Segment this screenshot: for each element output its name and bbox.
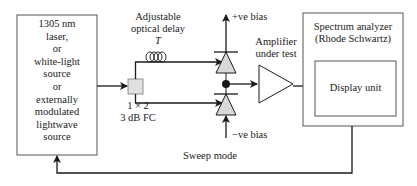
source-line: source: [17, 131, 97, 144]
source-line: white-light: [17, 56, 97, 69]
coupler-label-line1: 1 × 2: [118, 100, 158, 113]
source-line: 1305 nm: [17, 18, 97, 31]
amplifier-icon: [259, 65, 293, 103]
coupler-label-line2: 3 dB FC: [113, 112, 163, 125]
delay-coil-icon: [146, 52, 166, 62]
source-line: or: [17, 43, 97, 56]
analyzer-label-line1: Spectrum analyzer: [303, 21, 403, 34]
delay-label-line1: Adjustable: [118, 11, 198, 24]
source-line: source: [17, 68, 97, 81]
source-line: laser,: [17, 31, 97, 44]
bottom-photodiode-icon: [214, 94, 238, 115]
source-line: or: [17, 81, 97, 94]
source-line: modulated: [17, 106, 97, 119]
source-line: externally: [17, 94, 97, 107]
analyzer-label-line2: (Rhode Schwartz): [303, 33, 403, 46]
delay-label-line2: optical delay: [118, 23, 198, 36]
junction-node: [222, 80, 230, 88]
source-label: 1305 nm laser, or white-light source or …: [17, 18, 97, 144]
delay-symbol: T: [148, 35, 168, 48]
sweep-mode-label: Sweep mode: [170, 150, 250, 163]
top-fiber-path: [136, 62, 223, 79]
amplifier-label-line1: Amplifier: [246, 36, 306, 49]
display-unit-label: Display unit: [315, 82, 396, 95]
positive-bias-label: +ve bias: [232, 11, 267, 24]
fiber-coupler: [128, 79, 143, 94]
source-line: lightwave: [17, 119, 97, 132]
amplifier-label-line2: under test: [246, 48, 306, 61]
negative-bias-label: −ve bias: [232, 129, 267, 142]
